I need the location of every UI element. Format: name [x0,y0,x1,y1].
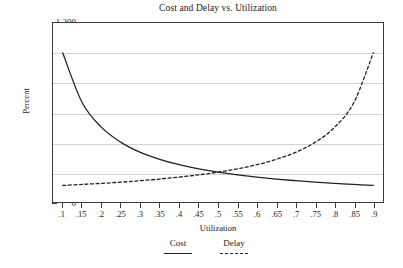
y-tick-mark [52,203,57,204]
x-tick-mark [277,203,278,208]
x-tick-label: .9 [359,209,389,219]
x-tick-mark [179,203,180,208]
legend-entry-cost: Cost [148,238,208,254]
legend-label-delay: Delay [204,238,264,249]
x-tick-mark [140,203,141,208]
x-tick-mark [198,203,199,208]
plot-area [52,22,384,203]
x-tick-mark [159,203,160,208]
legend-entry-delay: Delay [204,238,264,254]
x-axis-title: Utilization [52,223,384,233]
chart-title: Cost and Delay vs. Utilization [52,2,384,14]
series-line-cost [63,53,374,186]
series-line-delay [63,53,374,186]
x-tick-mark [101,203,102,208]
x-tick-mark [238,203,239,208]
x-tick-mark [355,203,356,208]
legend-label-cost: Cost [148,238,208,249]
legend-swatch-cost [164,253,192,254]
x-tick-mark [374,203,375,208]
chart-figure: Cost and Delay vs. Utilization Percent 0… [0,0,403,268]
x-tick-mark [335,203,336,208]
x-tick-mark [257,203,258,208]
x-tick-mark [296,203,297,208]
chart-legend: Cost Delay [52,238,384,260]
plot-curves [53,23,383,202]
x-tick-mark [120,203,121,208]
x-tick-mark [316,203,317,208]
x-tick-mark [218,203,219,208]
x-tick-mark [81,203,82,208]
legend-swatch-delay [220,253,248,254]
x-tick-mark [62,203,63,208]
